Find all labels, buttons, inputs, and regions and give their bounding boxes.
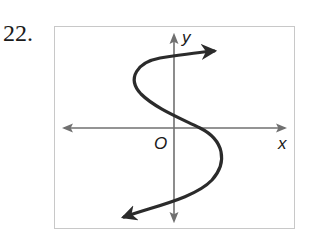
origin-label: O xyxy=(154,134,167,153)
y-axis-label: y xyxy=(181,28,192,47)
graph: y x O xyxy=(0,0,312,245)
x-axis-label: x xyxy=(277,134,287,153)
